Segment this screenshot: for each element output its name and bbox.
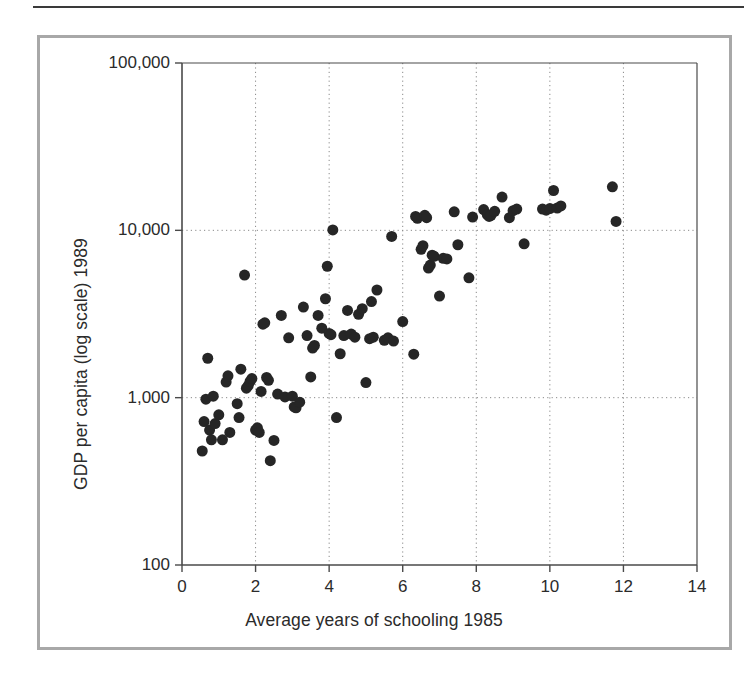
x-tick-label: 10: [540, 577, 559, 597]
data-point: [449, 206, 460, 217]
data-points: [197, 181, 622, 466]
data-point: [368, 332, 379, 343]
data-point: [548, 185, 559, 196]
data-point: [294, 397, 305, 408]
data-point: [263, 375, 274, 386]
axis-ticks: [175, 63, 697, 572]
data-point: [511, 204, 522, 215]
data-point: [497, 192, 508, 203]
data-point: [434, 291, 445, 302]
x-tick-label: 8: [472, 577, 481, 597]
data-point: [298, 302, 309, 313]
data-point: [302, 330, 313, 341]
data-point: [611, 216, 622, 227]
data-point: [388, 336, 399, 347]
x-tick-label: 0: [177, 577, 186, 597]
data-point: [441, 253, 452, 264]
data-point: [360, 377, 371, 388]
x-tick-label: 12: [614, 577, 633, 597]
scatter-chart: [0, 0, 748, 675]
y-tick-label: 100,000: [109, 53, 170, 73]
data-point: [239, 270, 250, 281]
data-point: [246, 373, 257, 384]
data-point: [467, 212, 478, 223]
data-point: [555, 200, 566, 211]
data-point: [222, 370, 233, 381]
gridlines: [182, 63, 697, 565]
data-point: [421, 212, 432, 223]
data-point: [397, 316, 408, 327]
x-tick-label: 14: [688, 577, 707, 597]
data-point: [197, 446, 208, 457]
x-axis-title: Average years of schooling 1985: [0, 610, 748, 631]
data-point: [322, 261, 333, 272]
data-point: [357, 303, 368, 314]
data-point: [276, 310, 287, 321]
data-point: [283, 332, 294, 343]
data-point: [335, 348, 346, 359]
data-point: [235, 364, 246, 375]
y-tick-label: 10,000: [118, 220, 170, 240]
y-axis-title: GDP per capita (log scale) 1989: [71, 238, 92, 490]
data-point: [320, 293, 331, 304]
y-tick-label: 1,000: [127, 388, 170, 408]
data-point: [256, 386, 267, 397]
data-point: [254, 427, 265, 438]
data-point: [408, 349, 419, 360]
data-point: [463, 272, 474, 283]
data-point: [202, 353, 213, 364]
data-point: [208, 391, 219, 402]
data-point: [349, 332, 360, 343]
y-tick-label: 100: [142, 555, 170, 575]
data-point: [519, 238, 530, 249]
data-point: [268, 435, 279, 446]
data-point: [232, 398, 243, 409]
data-point: [417, 240, 428, 251]
data-point: [234, 412, 245, 423]
axis-lines: [182, 63, 697, 565]
data-point: [313, 310, 324, 321]
data-point: [305, 371, 316, 382]
data-point: [366, 296, 377, 307]
data-point: [331, 412, 342, 423]
data-point: [428, 251, 439, 262]
x-tick-label: 4: [324, 577, 333, 597]
data-point: [342, 305, 353, 316]
data-point: [452, 239, 463, 250]
data-point: [224, 427, 235, 438]
x-tick-label: 6: [398, 577, 407, 597]
data-point: [327, 224, 338, 235]
data-point: [489, 206, 500, 217]
data-point: [213, 409, 224, 420]
data-point: [371, 285, 382, 296]
x-tick-label: 2: [251, 577, 260, 597]
data-point: [386, 231, 397, 242]
data-point: [607, 181, 618, 192]
data-point: [265, 455, 276, 466]
data-point: [206, 434, 217, 445]
data-point: [259, 317, 270, 328]
data-point: [309, 340, 320, 351]
data-point: [325, 329, 336, 340]
